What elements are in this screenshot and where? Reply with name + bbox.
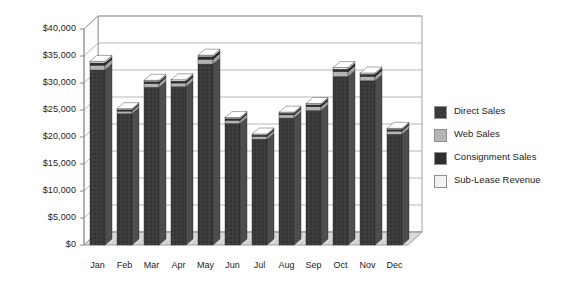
bar-column (279, 106, 301, 245)
bar-column (306, 98, 328, 245)
stacked-column-chart (0, 0, 576, 291)
legend-item-label: Direct Sales (454, 105, 505, 116)
bar-column (360, 67, 382, 245)
y-axis-tick-label: $25,000 (8, 104, 76, 114)
legend-swatch (434, 152, 447, 165)
x-axis-tick-label: Dec (377, 260, 413, 270)
chart-container: $0$5,000$10,000$15,000$20,000$25,000$30,… (0, 0, 576, 291)
bar-column (387, 122, 409, 245)
bar-column (333, 62, 355, 245)
bar-column (144, 74, 166, 245)
y-axis-tick-label: $40,000 (8, 23, 76, 33)
y-axis-tick-label: $15,000 (8, 158, 76, 168)
legend-item-label: Web Sales (454, 128, 500, 139)
y-axis-tick-label: $5,000 (8, 212, 76, 222)
bar-column (90, 55, 112, 245)
legend-swatch (434, 175, 447, 188)
y-axis-tick-label: $35,000 (8, 50, 76, 60)
y-axis-tick-label: $10,000 (8, 185, 76, 195)
y-axis-tick-label: $20,000 (8, 131, 76, 141)
legend-swatch (434, 129, 447, 142)
y-axis-tick-label: $30,000 (8, 77, 76, 87)
bar-column (171, 74, 193, 245)
bar-column (252, 128, 274, 245)
legend-item-label: Consignment Sales (454, 151, 536, 162)
legend-item-label: Sub-Lease Revenue (454, 174, 541, 185)
legend-swatch (434, 106, 447, 119)
bar-column (198, 49, 220, 245)
y-axis-tick-label: $0 (8, 239, 76, 249)
bar-column (117, 103, 139, 245)
bar-column (225, 112, 247, 245)
